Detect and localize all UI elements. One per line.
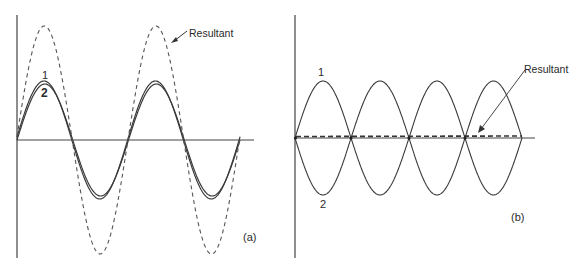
panel-b-label-1: 1 <box>318 66 324 78</box>
panel-b-wave-2 <box>295 138 522 195</box>
panel-a-label-1: 1 <box>42 69 48 81</box>
panel-a-tag: (a) <box>243 231 256 243</box>
panel-b-resultant-label: Resultant <box>524 63 568 75</box>
panel-a: 1 2 Resultant (a) <box>17 15 256 258</box>
wave-superposition-figure: 1 2 Resultant (a) 1 2 Resultant (b) <box>0 0 583 269</box>
panel-b-arrowhead-icon <box>478 125 485 133</box>
panel-b-wave-1 <box>295 81 522 138</box>
panel-a-arrowhead-icon <box>171 37 178 43</box>
panel-a-label-2: 2 <box>41 86 48 100</box>
panel-b-label-2: 2 <box>320 198 326 210</box>
panel-b: 1 2 Resultant (b) <box>294 15 569 258</box>
panel-a-resultant-label: Resultant <box>189 27 233 39</box>
panel-b-resultant-arrow <box>481 70 525 129</box>
panel-b-tag: (b) <box>511 211 524 223</box>
